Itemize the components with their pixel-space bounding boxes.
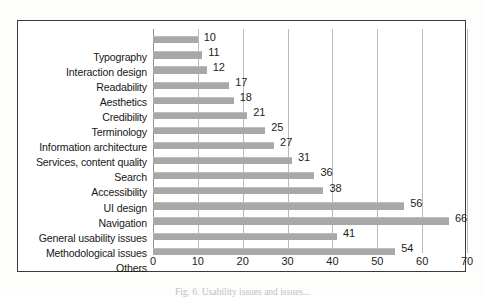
category-label: Terminology: [14, 126, 147, 138]
bar: [153, 248, 395, 255]
bar-value-label: 10: [204, 31, 216, 43]
x-tick-label: 40: [326, 255, 338, 267]
bar: [153, 66, 207, 73]
bar-value-label: 21: [253, 106, 265, 118]
bar-row: 21: [153, 108, 467, 123]
x-tick-label: 70: [461, 255, 473, 267]
bar-value-label: 54: [401, 242, 413, 254]
category-label: Navigation: [14, 217, 147, 229]
bar-row: 12: [153, 62, 467, 77]
bar: [153, 233, 337, 240]
bar: [153, 97, 234, 104]
bar-value-label: 56: [410, 197, 422, 209]
gridline-70: [467, 29, 468, 253]
bar-row: 25: [153, 123, 467, 138]
bar-row: 18: [153, 92, 467, 107]
bar: [153, 51, 202, 58]
bar-row: 36: [153, 168, 467, 183]
bar: [153, 142, 274, 149]
bar-value-label: 41: [343, 227, 355, 239]
bar-value-label: 27: [280, 136, 292, 148]
category-label: UI design: [14, 202, 147, 214]
bar-value-label: 36: [320, 166, 332, 178]
bar-value-label: 25: [271, 121, 283, 133]
category-label: Readability: [14, 81, 147, 93]
scanned-page: TypographyInteraction designReadabilityA…: [0, 0, 485, 297]
bar: [153, 112, 247, 119]
category-label: Typography: [14, 51, 147, 63]
category-label: Information architecture: [14, 141, 147, 153]
bar-row: 10: [153, 32, 467, 47]
bar-value-label: 12: [213, 61, 225, 73]
bar: [153, 157, 292, 164]
x-tick-label: 20: [237, 255, 249, 267]
bar-value-label: 17: [235, 76, 247, 88]
x-tick-label: 0: [150, 255, 156, 267]
bar-row: 17: [153, 77, 467, 92]
category-axis-labels: TypographyInteraction designReadabilityA…: [18, 49, 151, 273]
x-tick-label: 10: [192, 255, 204, 267]
bar-rows: 101112171821252731363856664154: [153, 29, 467, 253]
bar: [153, 187, 323, 194]
category-label: Credibility: [14, 111, 147, 123]
category-label: Services, content quality: [14, 156, 147, 168]
bar-value-label: 66: [455, 212, 467, 224]
bar-value-label: 18: [240, 91, 252, 103]
bar-row: 41: [153, 228, 467, 243]
x-tick-label: 50: [371, 255, 383, 267]
category-label: General usability issues: [14, 232, 147, 244]
bar-value-label: 31: [298, 151, 310, 163]
category-label: Aesthetics: [14, 96, 147, 108]
category-label: Others: [14, 262, 147, 274]
bar-value-label: 11: [208, 46, 219, 58]
plot-area: 101112171821252731363856664154: [153, 29, 467, 253]
chart-frame: TypographyInteraction designReadabilityA…: [17, 20, 466, 272]
category-label: Accessibility: [14, 186, 147, 198]
bar-value-label: 38: [329, 182, 341, 194]
category-label: Search: [14, 171, 147, 183]
x-tick-label: 60: [416, 255, 428, 267]
bar-row: 11: [153, 47, 467, 62]
bar-row: 66: [153, 213, 467, 228]
bar: [153, 82, 229, 89]
category-label: Interaction design: [14, 66, 147, 78]
bar: [153, 172, 314, 179]
bar: [153, 36, 198, 43]
figure-caption: Fig. 6. Usability issues and issues...: [0, 287, 485, 297]
bar: [153, 217, 449, 224]
bar: [153, 202, 404, 209]
x-tick-label: 30: [281, 255, 293, 267]
x-axis-tick-labels: 010203040506070: [153, 255, 467, 273]
bar: [153, 127, 265, 134]
category-label: Methodological issues: [14, 247, 147, 259]
bar-row: 31: [153, 153, 467, 168]
bar-row: 56: [153, 198, 467, 213]
